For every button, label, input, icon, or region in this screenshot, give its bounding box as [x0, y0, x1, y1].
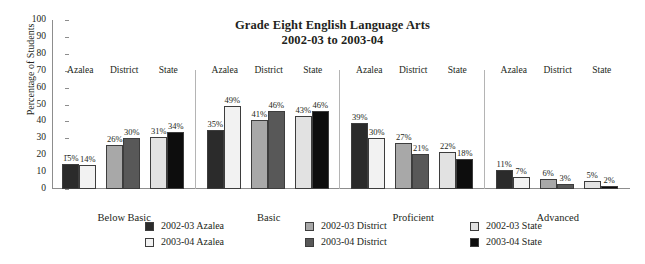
bar-group-proficient: Azalea39%30%District27%21%State22%18%Pro… [341, 20, 486, 189]
y-axis-tick-label: 90 [20, 32, 46, 42]
legend-item[interactable]: 2002-03 State [470, 218, 542, 234]
legend-item-label: 2003-04 Azalea [161, 236, 224, 247]
bar-proficient-district-2003-04 [412, 154, 429, 189]
bar-basic-azalea-2002-03 [207, 130, 224, 189]
bar-basic-azalea-2003-04 [224, 106, 241, 189]
bar-advanced-azalea-2003-04 [513, 177, 530, 189]
y-axis-tick-label: 60 [20, 83, 46, 93]
bar-value-label: 18% [448, 148, 482, 158]
bar-advanced-state-2003-04 [601, 186, 618, 189]
bar-below-basic-state-2002-03 [150, 137, 167, 189]
bar-group-advanced: Azalea11%7%District6%3%State5%2%Advanced [486, 20, 631, 189]
y-axis-tick-label: 70 [20, 66, 46, 76]
y-axis-tick-label: 80 [20, 49, 46, 59]
bar-basic-state-2003-04 [312, 111, 329, 189]
bar-basic-state-2002-03 [295, 116, 312, 189]
chart-legend: 2002-03 Azalea2003-04 Azalea2002-03 Dist… [0, 218, 645, 258]
bar-basic-district-2002-03 [251, 120, 268, 189]
legend-column: 2002-03 State2003-04 State [470, 218, 542, 250]
y-axis-tick-mark [65, 189, 69, 190]
legend-swatch-icon [470, 222, 479, 231]
legend-item[interactable]: 2003-04 District [305, 234, 387, 250]
bar-proficient-state-2003-04 [456, 159, 473, 189]
y-axis-tick-label: 20 [20, 150, 46, 160]
y-axis-tick-label: 100 [20, 15, 46, 25]
legend-column: 2002-03 Azalea2003-04 Azalea [145, 218, 224, 250]
y-axis-tick-label: 50 [20, 100, 46, 110]
legend-item-label: 2003-04 District [321, 236, 387, 247]
legend-swatch-icon [305, 238, 314, 247]
bar-value-label: 49% [215, 95, 249, 105]
legend-item[interactable]: 2003-04 Azalea [145, 234, 224, 250]
group-divider [339, 70, 340, 189]
legend-item[interactable]: 2003-04 State [470, 234, 542, 250]
subgroup-label-state: State [138, 65, 198, 75]
subgroup-label-state: State [572, 65, 632, 75]
legend-item-label: 2002-03 District [321, 220, 387, 231]
subgroup-label-state: State [283, 65, 343, 75]
legend-column: 2002-03 District2003-04 District [305, 218, 387, 250]
legend-item[interactable]: 2002-03 District [305, 218, 387, 234]
chart-container: Grade Eight English Language Arts 2002-0… [0, 0, 645, 264]
legend-swatch-icon [145, 222, 154, 231]
bar-basic-district-2003-04 [268, 111, 285, 189]
y-axis-tick-label: 10 [20, 167, 46, 177]
bar-advanced-district-2003-04 [557, 184, 574, 189]
bar-proficient-azalea-2003-04 [368, 138, 385, 189]
bar-value-label: 2% [592, 175, 626, 185]
bar-below-basic-azalea-2002-03 [62, 164, 79, 189]
bar-value-label: 39% [343, 112, 377, 122]
legend-item-label: 2003-04 State [486, 236, 542, 247]
bar-below-basic-district-2003-04 [123, 138, 140, 189]
legend-item-label: 2002-03 State [486, 220, 542, 231]
legend-swatch-icon [305, 222, 314, 231]
bar-group-below-basic: Azalea15%14%District26%30%State31%34%Bel… [52, 20, 197, 189]
legend-swatch-icon [470, 238, 479, 247]
bar-value-label: 46% [303, 100, 337, 110]
group-divider [195, 70, 196, 189]
y-axis-tick-label: 40 [20, 116, 46, 126]
subgroup-label-state: State [427, 65, 487, 75]
legend-item-label: 2002-03 Azalea [161, 220, 224, 231]
y-axis-tick-label: 30 [20, 133, 46, 143]
bar-below-basic-district-2002-03 [106, 145, 123, 189]
bar-value-label: 14% [71, 154, 105, 164]
legend-item[interactable]: 2002-03 Azalea [145, 218, 224, 234]
plot-area: Azalea15%14%District26%30%State31%34%Bel… [52, 20, 630, 189]
bar-group-basic: Azalea35%49%District41%46%State43%46%Bas… [197, 20, 342, 189]
y-axis-tick-label: 0 [20, 184, 46, 194]
group-divider [484, 70, 485, 189]
bar-value-label: 27% [387, 132, 421, 142]
legend-swatch-icon [145, 238, 154, 247]
bar-value-label: 34% [159, 121, 193, 131]
bar-below-basic-azalea-2003-04 [79, 165, 96, 189]
bar-below-basic-state-2003-04 [167, 132, 184, 189]
